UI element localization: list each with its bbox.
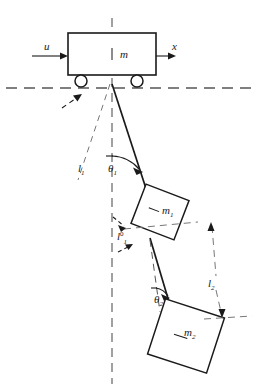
label-length-1: l1 (78, 162, 85, 177)
label-input-force: u (44, 40, 50, 52)
axis-arrow-x-head (168, 53, 176, 60)
dimension-l1-arrow-head (73, 94, 82, 102)
pendulum-cart-diagram: u x m l1 θ1 m1 l01 θ2 m2 (0, 0, 260, 384)
wheel-left-icon (75, 75, 87, 87)
dimension-l2-line-lower (216, 290, 221, 312)
label-length-1-com: l01 (117, 230, 127, 246)
wheel-right-icon (131, 75, 143, 87)
link-1-block (131, 184, 189, 240)
diagram-canvas: u x m l1 θ1 m1 l01 θ2 m2 (0, 0, 260, 384)
dimension-l2-line-upper (212, 226, 216, 276)
label-length-2: l2 (208, 277, 215, 292)
label-angle-1: θ1 (108, 162, 117, 177)
dimension-l2-arrow-head-top (208, 222, 215, 231)
dimension-l1-com-upper-shaft (113, 217, 124, 226)
force-arrow-u-head (60, 53, 68, 60)
label-cart-position: x (171, 40, 177, 52)
label-cart-mass: m (120, 48, 128, 60)
dimension-l1-line (78, 84, 110, 180)
